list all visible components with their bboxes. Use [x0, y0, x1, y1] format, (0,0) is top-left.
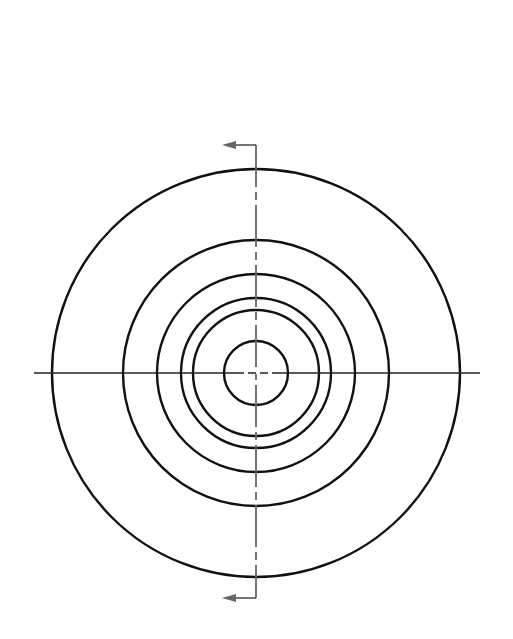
- top-arrowhead-icon: [222, 141, 236, 149]
- bottom-arrowhead-icon: [222, 594, 236, 602]
- section-arrows: [222, 141, 256, 602]
- technical-drawing: [0, 0, 513, 639]
- vertical-section-line: [236, 145, 276, 598]
